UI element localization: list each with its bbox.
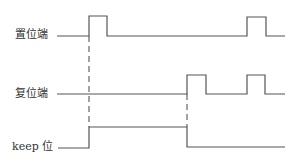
reset-waveform	[57, 75, 285, 94]
keep-waveform	[58, 127, 285, 148]
set-waveform	[57, 16, 285, 36]
timing-diagram: 置位端 复位端 keep 位	[0, 0, 300, 166]
waveform-canvas	[0, 0, 300, 166]
